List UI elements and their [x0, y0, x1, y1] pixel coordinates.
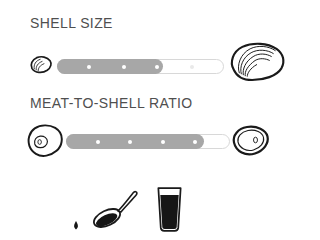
slider-step-dot [87, 65, 91, 69]
slider-dots [67, 135, 229, 148]
pint-glass-icon [154, 186, 185, 233]
small-closed-oyster-icon [29, 55, 53, 75]
open-oyster-low-meat-icon [26, 123, 63, 161]
slider-step-dot [193, 140, 197, 144]
slider-step-dot [122, 65, 126, 69]
slider-step-dot [128, 140, 132, 144]
large-closed-oyster-icon [227, 41, 287, 82]
slider-dots [58, 60, 223, 73]
slider-step-dot [161, 140, 165, 144]
shell-size-slider[interactable] [57, 59, 224, 74]
slider-step-dot [96, 140, 100, 144]
shell-size-title: SHELL SIZE [30, 15, 113, 31]
slider-step-dot [190, 65, 194, 69]
open-oyster-high-meat-icon [231, 124, 270, 158]
meat-to-shell-ratio-slider[interactable] [66, 134, 230, 149]
sauce-spoon-icon [59, 187, 139, 233]
meat-to-shell-ratio-title: MEAT-TO-SHELL RATIO [30, 95, 193, 111]
slider-step-dot [155, 65, 159, 69]
